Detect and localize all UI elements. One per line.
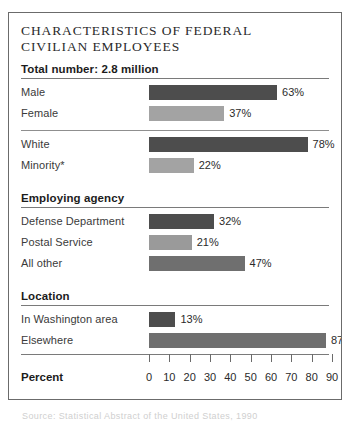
bar-value-label: 87%: [331, 334, 342, 346]
axis-tick-label: 70: [285, 371, 297, 383]
bar: [149, 106, 224, 121]
axis-tick-label: 90: [326, 371, 338, 383]
axis-tick-label: 0: [146, 371, 152, 383]
axis-tick: [251, 354, 252, 362]
axis-tick-label: 10: [163, 371, 175, 383]
bar-label: Minority*: [21, 159, 65, 171]
group-divider: [21, 130, 329, 131]
section-header: Total number: 2.8 million: [21, 63, 329, 75]
bar: [149, 137, 308, 152]
x-axis-line: [21, 354, 329, 355]
bar: [149, 256, 245, 271]
bar-value-label: 32%: [219, 215, 241, 227]
chart-title: CHARACTERISTICS OF FEDERAL CIVILIAN EMPL…: [21, 13, 329, 54]
bar-row: In Washington area13%: [21, 310, 329, 331]
axis-tick: [312, 354, 313, 362]
bar-label: Defense Department: [21, 215, 124, 227]
bar-label: Male: [21, 86, 45, 98]
bar-row: Minority*22%: [21, 156, 329, 177]
chart-frame: CHARACTERISTICS OF FEDERAL CIVILIAN EMPL…: [8, 12, 342, 400]
x-axis-label: Percent: [21, 371, 63, 383]
bar-label: In Washington area: [21, 313, 118, 325]
axis-tick: [230, 354, 231, 362]
bar-value-label: 13%: [180, 313, 202, 325]
axis-tick: [332, 354, 333, 362]
bar-value-label: 22%: [199, 159, 221, 171]
bar: [149, 158, 194, 173]
bar-value-label: 63%: [282, 86, 304, 98]
section-divider: [21, 207, 329, 208]
x-axis: [21, 354, 329, 368]
bar-label: Female: [21, 107, 58, 119]
bar: [149, 235, 192, 250]
section-header: Location: [21, 290, 329, 302]
axis-tick: [190, 354, 191, 362]
bar-row: White78%: [21, 135, 329, 156]
axis-tick: [149, 354, 150, 362]
bar-row: Elsewhere87%: [21, 331, 329, 352]
bar: [149, 333, 326, 348]
source-caption: Source: Statistical Abstract of the Unit…: [22, 411, 258, 421]
axis-tick: [271, 354, 272, 362]
bar: [149, 312, 175, 327]
bar-row: All other47%: [21, 254, 329, 275]
section-header: Employing agency: [21, 192, 329, 204]
bar-value-label: 78%: [313, 138, 335, 150]
axis-tick-label: 20: [184, 371, 196, 383]
bar-label: White: [21, 138, 50, 150]
axis-tick: [169, 354, 170, 362]
chart-inner: CHARACTERISTICS OF FEDERAL CIVILIAN EMPL…: [9, 13, 341, 399]
bar-label: Postal Service: [21, 236, 93, 248]
bar-value-label: 37%: [229, 107, 251, 119]
axis-tick: [210, 354, 211, 362]
section-gap: [21, 177, 329, 183]
axis-tick-label: 80: [306, 371, 318, 383]
chart-sections: Total number: 2.8 millionMale63%Female37…: [21, 63, 329, 352]
section-divider: [21, 78, 329, 79]
section-divider: [21, 305, 329, 306]
bar-row: Postal Service21%: [21, 233, 329, 254]
bar-value-label: 21%: [197, 236, 219, 248]
bar-value-label: 47%: [250, 257, 272, 269]
bar: [149, 85, 277, 100]
axis-tick: [291, 354, 292, 362]
axis-tick-label: 60: [265, 371, 277, 383]
bar-label: All other: [21, 257, 62, 269]
bar-label: Elsewhere: [21, 334, 73, 346]
bar-row: Female37%: [21, 104, 329, 125]
axis-tick-label: 50: [245, 371, 257, 383]
bar-row: Male63%: [21, 83, 329, 104]
bar-row: Defense Department32%: [21, 212, 329, 233]
axis-tick-label: 30: [204, 371, 216, 383]
axis-footer: Percent 0102030405060708090: [21, 369, 329, 387]
section-gap: [21, 275, 329, 281]
axis-tick-label: 40: [224, 371, 236, 383]
bar: [149, 214, 214, 229]
